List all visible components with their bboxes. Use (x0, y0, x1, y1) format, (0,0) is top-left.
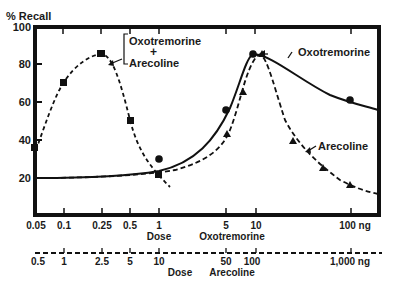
recall-dose-chart: % Recall 100 80 60 40 20 Oxotremorine + … (0, 0, 396, 281)
combination-markers (31, 50, 162, 178)
x-axis-oxotremorine-title: Oxotremorine (199, 231, 265, 242)
x2-axis-dose-label: Dose (168, 267, 193, 278)
combo-bracket (124, 34, 128, 64)
x-axis-oxotremorine-labels: 0.05 0.1 0.25 0.5 1 5 10 100 ng (26, 220, 371, 231)
svg-text:0.25: 0.25 (92, 220, 112, 231)
svg-text:5: 5 (127, 256, 133, 267)
combination-curve (36, 54, 170, 187)
svg-text:5: 5 (223, 220, 229, 231)
y-tick-label: 100 (13, 21, 31, 33)
svg-text:1: 1 (61, 256, 67, 267)
y-tick-label: 40 (19, 134, 31, 146)
y-tick-label: 60 (19, 96, 31, 108)
y-tick-label: 20 (19, 172, 31, 184)
oxotremorine-label: Oxotremorine (298, 46, 370, 58)
oxotremorine-curve (37, 54, 378, 178)
svg-text:0.05: 0.05 (26, 220, 46, 231)
svg-text:0.5: 0.5 (31, 256, 45, 267)
oxotremorine-label-arrow (288, 52, 292, 58)
svg-text:1: 1 (156, 220, 162, 231)
combo-label-arecoline: Arecoline (129, 57, 179, 69)
svg-text:10: 10 (250, 220, 262, 231)
x-axis-dose-label: Dose (147, 231, 172, 242)
svg-text:100 ng: 100 ng (339, 220, 371, 231)
svg-text:10: 10 (153, 256, 165, 267)
svg-text:1,000 ng: 1,000 ng (330, 256, 370, 267)
svg-text:2.5: 2.5 (95, 256, 109, 267)
combo-label-oxotremorine: Oxotremorine (129, 35, 201, 47)
svg-text:100: 100 (244, 256, 261, 267)
y-tick-label: 80 (19, 58, 31, 70)
x-axis-arecoline-title: Arecoline (209, 267, 255, 278)
svg-text:0.1: 0.1 (57, 220, 71, 231)
svg-text:50: 50 (220, 256, 232, 267)
arecoline-label: Arecoline (318, 140, 368, 152)
arecoline-arrowhead-icon (305, 147, 311, 153)
svg-text:0.5: 0.5 (123, 220, 137, 231)
arecoline-curve (37, 55, 378, 194)
x-axis-arecoline-labels: 0.5 1 2.5 5 10 50 100 1,000 ng (31, 256, 370, 267)
